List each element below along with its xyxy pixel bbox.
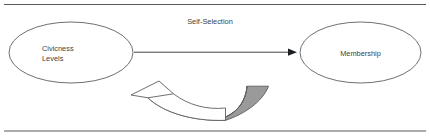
node-civicness-levels-label-line2: Levels xyxy=(42,54,64,63)
edge-self-selection-arrowhead xyxy=(288,49,297,56)
edge-self-selection-label: Self-Selection xyxy=(187,17,233,26)
diagram-svg: Civicness Levels Membership Self-Selecti… xyxy=(0,0,430,140)
node-membership-label: Membership xyxy=(340,49,381,58)
node-civicness-levels-label-line1: Civicness xyxy=(42,44,74,53)
edge-feedback-shade xyxy=(226,86,269,120)
diagram-canvas: Civicness Levels Membership Self-Selecti… xyxy=(0,0,430,140)
